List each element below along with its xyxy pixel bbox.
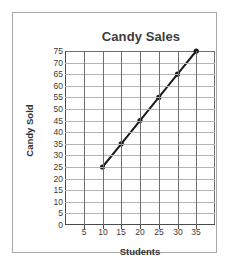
y-axis-tick-label: 10: [37, 198, 63, 207]
y-axis-tick-label: 0: [37, 221, 63, 230]
gridline-vertical: [103, 51, 104, 225]
x-axis-tick-mark: [140, 225, 141, 229]
y-axis-tick-label: 25: [37, 163, 63, 172]
x-axis-tick-labels: 5101520253035: [65, 228, 215, 242]
y-axis-tick-label: 55: [37, 93, 63, 102]
x-axis-label: Students: [65, 246, 215, 257]
y-axis-tick-labels: 051015202530354045505560657075: [35, 51, 63, 225]
chart-page: Candy Sales 0510152025303540455055606570…: [0, 0, 229, 265]
y-axis-tick-label: 35: [37, 140, 63, 149]
chart-frame: Candy Sales 0510152025303540455055606570…: [12, 12, 217, 253]
gridline-vertical: [159, 51, 160, 225]
gridline-vertical: [196, 51, 197, 225]
y-axis-tick-label: 70: [37, 59, 63, 68]
x-axis-tick-mark: [178, 225, 179, 229]
y-axis-tick-label: 75: [37, 47, 63, 56]
gridline-vertical: [121, 51, 122, 225]
y-axis-label: Candy Sold: [24, 81, 35, 181]
gridline-vertical: [140, 51, 141, 225]
chart-title: Candy Sales: [65, 29, 217, 44]
y-axis-tick-label: 60: [37, 82, 63, 91]
gridline-vertical: [178, 51, 179, 225]
y-axis-tick-label: 5: [37, 209, 63, 218]
x-axis-tick-mark: [121, 225, 122, 229]
y-axis-tick-label: 50: [37, 105, 63, 114]
y-axis-tick-label: 40: [37, 128, 63, 137]
x-axis-tick-mark: [103, 225, 104, 229]
x-axis-tick-mark: [196, 225, 197, 229]
y-axis-tick-label: 45: [37, 117, 63, 126]
x-axis-tick-mark: [159, 225, 160, 229]
y-axis-tick-label: 30: [37, 151, 63, 160]
x-axis-tick-mark: [84, 225, 85, 229]
plot-area: [65, 51, 215, 225]
gridline-vertical: [84, 51, 85, 225]
y-axis-tick-label: 20: [37, 175, 63, 184]
y-axis-tick-label: 65: [37, 70, 63, 79]
x-axis-tick-label: 35: [185, 228, 207, 237]
y-axis-tick-label: 15: [37, 186, 63, 195]
